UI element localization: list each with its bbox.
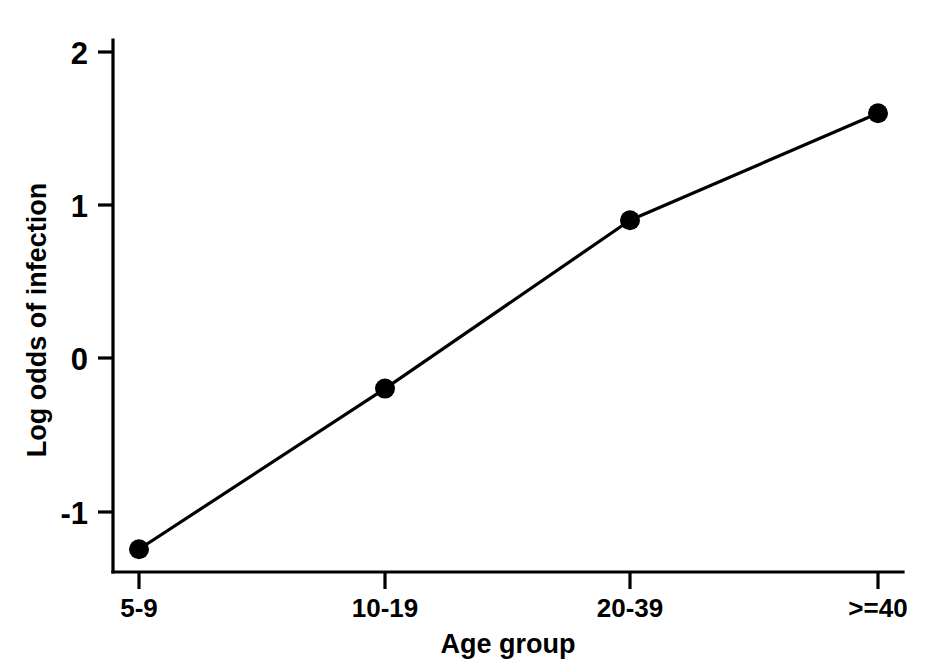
- y-tick-marks: [98, 52, 113, 512]
- x-tick-label-10-19: 10-19: [352, 593, 419, 623]
- x-tick-label-5-9: 5-9: [120, 593, 158, 623]
- y-axis-title: Log odds of infection: [22, 183, 52, 457]
- cut-off-caption-strip: [0, 655, 934, 670]
- y-tick-label-0: 0: [71, 342, 88, 377]
- figure-canvas: 2 1 0 -1 5-9 10-19 20-39 >=40 Age group …: [0, 0, 934, 670]
- y-tick-label-1: 1: [71, 189, 88, 224]
- data-point-marker: [620, 210, 640, 230]
- y-tick-label-minus-1: -1: [60, 496, 88, 531]
- data-series-line: [139, 113, 878, 549]
- y-tick-label-2: 2: [71, 36, 88, 71]
- data-point-marker: [868, 103, 888, 123]
- x-tick-marks: [139, 572, 878, 589]
- data-point-marker: [129, 539, 149, 559]
- line-chart: 2 1 0 -1 5-9 10-19 20-39 >=40 Age group …: [0, 0, 934, 670]
- data-point-marker: [375, 379, 395, 399]
- y-tick-labels: 2 1 0 -1: [60, 36, 88, 531]
- data-series-markers: [129, 103, 888, 559]
- x-tick-labels: 5-9 10-19 20-39 >=40: [120, 593, 907, 623]
- x-tick-label-gte-40: >=40: [848, 593, 907, 623]
- x-tick-label-20-39: 20-39: [597, 593, 664, 623]
